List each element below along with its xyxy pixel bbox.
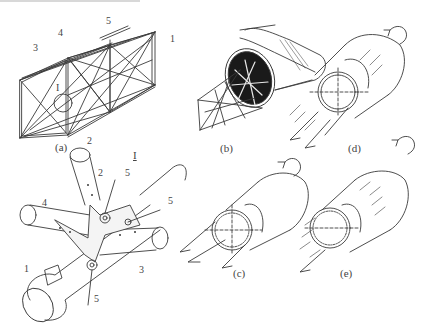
callout-d-4: 4 bbox=[42, 198, 47, 208]
truss-frame-a bbox=[20, 26, 155, 138]
detail-marker-a: I bbox=[56, 83, 59, 93]
callout-a-5: 5 bbox=[106, 16, 111, 26]
diagram-drawing bbox=[0, 0, 422, 329]
caption-a: (a) bbox=[55, 142, 67, 153]
truss-to-shell-b bbox=[198, 25, 325, 130]
callout-a-4: 4 bbox=[58, 28, 63, 38]
caption-e: (e) bbox=[340, 268, 352, 279]
detail-label: I bbox=[133, 150, 137, 161]
cylinder-c bbox=[180, 158, 308, 268]
callout-d-3: 3 bbox=[139, 265, 144, 275]
caption-b: (b) bbox=[220, 143, 233, 154]
cylinder-e bbox=[300, 136, 415, 272]
caption-d: (d) bbox=[348, 143, 361, 154]
caption-c: (c) bbox=[233, 268, 245, 279]
callout-d-1: 1 bbox=[24, 264, 29, 274]
callout-d-5c: 5 bbox=[94, 294, 99, 304]
callout-a-3: 3 bbox=[33, 43, 38, 53]
callout-a-1: 1 bbox=[170, 34, 175, 44]
callout-d-5b: 5 bbox=[168, 196, 173, 206]
callout-a-2: 2 bbox=[87, 136, 92, 146]
callout-d-5a: 5 bbox=[125, 168, 130, 178]
cylinder-d bbox=[290, 26, 407, 148]
callout-d-2: 2 bbox=[98, 168, 103, 178]
